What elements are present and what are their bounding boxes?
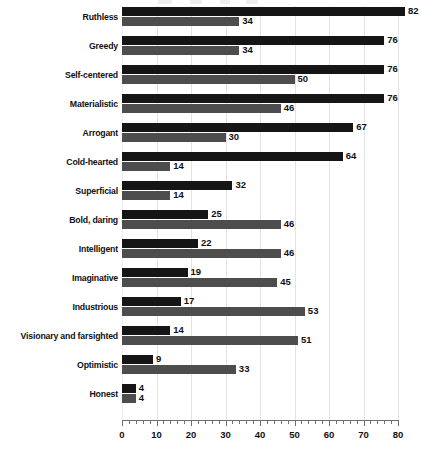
bar-pair: 7646 (122, 93, 421, 122)
bar-pair: 6414 (122, 151, 421, 180)
bar-value-label: 46 (284, 219, 295, 228)
category-label: Optimistic (9, 357, 118, 373)
minor-tick-54 (308, 421, 309, 424)
bar-series-2 (122, 46, 239, 55)
bar-series-2 (122, 307, 305, 316)
category-label: Imaginative (9, 270, 118, 286)
bar-value-label: 46 (284, 248, 295, 257)
bar-series-2 (122, 162, 170, 171)
bar-row: Ruthless8234 (0, 6, 421, 35)
bar-value-label: 46 (284, 103, 295, 112)
bar-value-label: 76 (387, 64, 398, 73)
bar-value-label: 14 (173, 325, 184, 334)
category-label: Bold, daring (9, 212, 118, 228)
minor-tick-44 (274, 421, 275, 424)
bar-value-label: 34 (242, 16, 253, 25)
bar-series-2 (122, 220, 281, 229)
bar-row: Bold, daring2546 (0, 209, 421, 238)
bar-row: Cold-hearted6414 (0, 151, 421, 180)
x-tick-label: 60 (317, 429, 341, 440)
bar-series-1 (122, 7, 405, 16)
minor-tick-32 (232, 421, 233, 424)
minor-tick-12 (163, 421, 164, 424)
bar-pair: 1945 (122, 267, 421, 296)
category-label: Ruthless (9, 9, 118, 25)
minor-tick-22 (198, 421, 199, 424)
category-label: Cold-hearted (9, 154, 118, 170)
bar-value-label: 76 (387, 93, 398, 102)
major-tick-0 (122, 421, 123, 426)
major-tick-50 (295, 421, 296, 426)
plot-area: Ruthless8234Greedy7634Self-centered7650M… (0, 0, 421, 471)
bar-value-label: 32 (235, 180, 246, 189)
bar-pair: 2546 (122, 209, 421, 238)
bar-series-2 (122, 336, 298, 345)
bar-series-1 (122, 355, 153, 364)
bar-value-label: 4 (139, 393, 144, 402)
category-label: Superficial (9, 183, 118, 199)
bar-series-2 (122, 394, 136, 403)
minor-tick-2 (129, 421, 130, 424)
major-tick-10 (157, 421, 158, 426)
minor-tick-26 (212, 421, 213, 424)
minor-tick-18 (184, 421, 185, 424)
minor-tick-64 (343, 421, 344, 424)
bar-series-1 (122, 94, 384, 103)
minor-tick-46 (281, 421, 282, 424)
bar-value-label: 30 (229, 132, 240, 141)
category-label: Honest (9, 386, 118, 402)
minor-tick-78 (391, 421, 392, 424)
major-tick-80 (398, 421, 399, 426)
bar-series-2 (122, 191, 170, 200)
minor-tick-66 (350, 421, 351, 424)
bar-series-2 (122, 365, 236, 374)
bar-series-1 (122, 268, 188, 277)
bar-value-label: 51 (301, 335, 312, 344)
minor-tick-72 (370, 421, 371, 424)
minor-tick-74 (377, 421, 378, 424)
minor-tick-56 (315, 421, 316, 424)
category-label: Greedy (9, 38, 118, 54)
bar-series-2 (122, 278, 277, 287)
bar-value-label: 25 (211, 209, 222, 218)
bar-row: Superficial3214 (0, 180, 421, 209)
bar-row: Self-centered7650 (0, 64, 421, 93)
minor-tick-36 (246, 421, 247, 424)
major-tick-70 (364, 421, 365, 426)
bar-pair: 2246 (122, 238, 421, 267)
bar-series-1 (122, 152, 343, 161)
minor-tick-16 (177, 421, 178, 424)
bar-value-label: 4 (139, 383, 144, 392)
bar-series-2 (122, 75, 295, 84)
minor-tick-76 (384, 421, 385, 424)
bar-series-2 (122, 104, 281, 113)
x-tick-label: 20 (179, 429, 203, 440)
bar-row: Materialistic7646 (0, 93, 421, 122)
major-tick-30 (226, 421, 227, 426)
bar-value-label: 64 (346, 151, 357, 160)
minor-tick-58 (322, 421, 323, 424)
bar-series-1 (122, 65, 384, 74)
minor-tick-14 (170, 421, 171, 424)
bar-row: Intelligent2246 (0, 238, 421, 267)
category-label: Visionary and farsighted (9, 328, 118, 344)
bar-series-1 (122, 297, 181, 306)
bar-value-label: 14 (173, 190, 184, 199)
minor-tick-28 (219, 421, 220, 424)
minor-tick-4 (136, 421, 137, 424)
bar-value-label: 14 (173, 161, 184, 170)
bar-pair: 1451 (122, 325, 421, 354)
x-tick-label: 80 (386, 429, 410, 440)
bar-row: Optimistic933 (0, 354, 421, 383)
bar-value-label: 22 (201, 238, 212, 247)
x-tick-label: 70 (352, 429, 376, 440)
x-axis: 01020304050607080 (0, 420, 421, 460)
bar-chart: Ruthless8234Greedy7634Self-centered7650M… (0, 0, 421, 471)
bar-series-1 (122, 326, 170, 335)
bar-series-1 (122, 384, 136, 393)
category-label: Self-centered (9, 67, 118, 83)
bar-series-1 (122, 210, 208, 219)
x-tick-label: 30 (214, 429, 238, 440)
minor-tick-48 (288, 421, 289, 424)
minor-tick-24 (205, 421, 206, 424)
